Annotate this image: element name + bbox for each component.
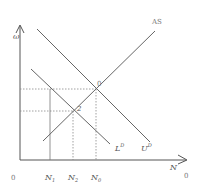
tick-n1-label: N1 <box>44 173 55 183</box>
demand-curve-upper <box>37 29 150 142</box>
tick-n2-label: N2 <box>67 173 78 183</box>
x-axis-label: N <box>169 163 178 172</box>
labor-market-diagram: ω AS 0 2 LD UD N 0 0 N1 N2 N0 <box>0 0 200 189</box>
demand-lower-label: LD <box>114 142 124 153</box>
origin-label: 0 <box>11 174 15 182</box>
y-axis-label: ω <box>13 32 20 41</box>
supply-curve-label: AS <box>151 18 162 26</box>
point-2-label: 2 <box>76 105 82 113</box>
tick-n0-label: N0 <box>90 173 102 183</box>
x-end-label: 0 <box>184 172 188 180</box>
point-0-label: 0 <box>97 80 101 88</box>
demand-upper-label: UD <box>141 142 152 153</box>
